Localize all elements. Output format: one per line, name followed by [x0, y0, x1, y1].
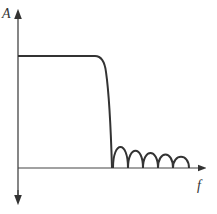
- sidelobes: [113, 147, 189, 168]
- y-axis-label: A: [1, 6, 11, 21]
- passband-curve: [18, 56, 112, 168]
- frequency-response-diagram: A f: [0, 0, 217, 214]
- x-axis-label: f: [197, 178, 203, 193]
